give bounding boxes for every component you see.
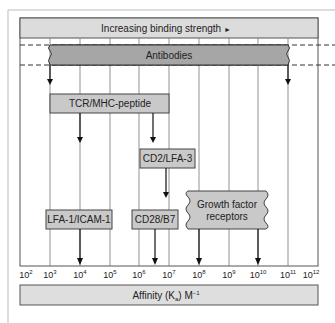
tick-1e2: 102 xyxy=(19,269,33,280)
antibodies-label: Antibodies xyxy=(146,50,193,61)
tick-1e3: 103 xyxy=(43,269,57,280)
growth-factor-label-1: Growth factor xyxy=(197,199,258,210)
lfa1-icam1-label: LFA-1/ICAM-1 xyxy=(47,214,111,225)
growth-factor-label-2: receptors xyxy=(206,211,248,222)
tick-1e6: 106 xyxy=(132,269,146,280)
tick-1e4: 104 xyxy=(73,269,87,280)
tick-1e5: 105 xyxy=(103,269,117,280)
tick-1e7: 107 xyxy=(162,269,176,280)
header-label: Increasing binding strength ► xyxy=(101,23,231,34)
right-arrow-icon: ► xyxy=(224,26,231,33)
tcr-mhc-label: TCR/MHC-peptide xyxy=(69,98,152,109)
affinity-diagram: Increasing binding strength ► Antibodies… xyxy=(0,0,335,323)
tick-1e10: 1010 xyxy=(250,269,267,280)
growth-factor-box xyxy=(186,191,268,229)
tick-1e9: 109 xyxy=(222,269,236,280)
cd2-lfa3-label: CD2/LFA-3 xyxy=(143,153,193,164)
axis-ticks: 102 103 104 105 106 107 108 109 1010 101… xyxy=(19,269,320,280)
tick-1e11: 1011 xyxy=(280,269,297,280)
tick-1e8: 108 xyxy=(192,269,206,280)
axis-label: Affinity (Ka) M−1 xyxy=(132,290,200,302)
cd28-b7-label: CD28/B7 xyxy=(135,214,176,225)
tick-1e12: 1012 xyxy=(303,269,320,280)
